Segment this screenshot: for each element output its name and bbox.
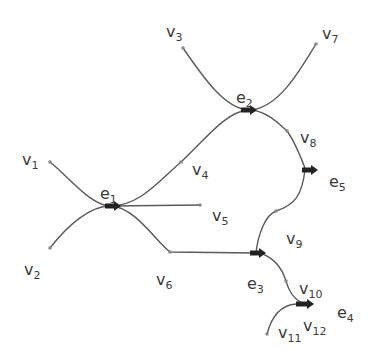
vertex-dot-v10 bbox=[284, 279, 288, 283]
vertex-label-v5: v5 bbox=[212, 208, 228, 227]
edge-e1-v5 bbox=[112, 205, 200, 206]
edge-e2-v8 bbox=[252, 110, 305, 168]
vertex-label-v9: v9 bbox=[286, 231, 302, 250]
hyperedge-label-e4: e4 bbox=[337, 305, 354, 324]
vertex-dot-v2 bbox=[48, 246, 52, 250]
edge-e1-v6 bbox=[112, 206, 255, 253]
vertex-dot-v9 bbox=[274, 209, 278, 213]
edge-v2-e1 bbox=[50, 206, 110, 248]
vertex-label-v8: v8 bbox=[300, 130, 316, 149]
hyperedge-label-e2: e2 bbox=[236, 90, 253, 109]
vertex-label-v4: v4 bbox=[192, 162, 208, 181]
vertex-dot-v6 bbox=[168, 250, 172, 254]
vertex-dot-v3 bbox=[181, 46, 185, 50]
vertex-label-v1: v1 bbox=[22, 152, 38, 171]
vertex-label-v12: v12 bbox=[303, 318, 326, 337]
vertex-label-v10: v10 bbox=[299, 281, 322, 300]
edge-e2-v7 bbox=[252, 44, 316, 110]
vertex-label-v11: v11 bbox=[278, 325, 301, 344]
vertex-label-v6: v6 bbox=[156, 272, 172, 291]
hyperedge-label-e3: e3 bbox=[247, 276, 264, 295]
vertex-label-v3: v3 bbox=[166, 24, 182, 43]
hypergraph-diagram bbox=[0, 0, 376, 364]
vertex-dot-v1 bbox=[48, 160, 52, 164]
hyperedge-arrow-e3 bbox=[250, 248, 266, 258]
vertex-dot-v5 bbox=[198, 203, 202, 207]
hyperedge-label-e1: e1 bbox=[100, 186, 117, 205]
vertex-label-v2: v2 bbox=[24, 262, 40, 281]
vertex-label-v7: v7 bbox=[322, 26, 338, 45]
hyperedge-label-e5: e5 bbox=[329, 174, 346, 193]
vertex-dot-v4 bbox=[179, 160, 183, 164]
vertex-dot-v7 bbox=[314, 42, 318, 46]
vertex-dot-v8 bbox=[285, 129, 289, 133]
edge-e1-v4 bbox=[110, 110, 248, 206]
vertex-dot-v11 bbox=[265, 332, 269, 336]
